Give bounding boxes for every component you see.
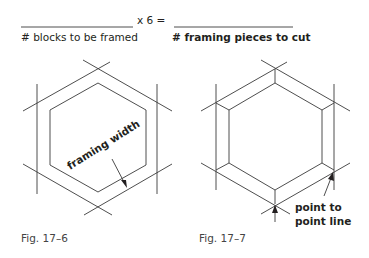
outer-line-left-ll [23, 164, 112, 215]
outer-line-right-ur [261, 60, 350, 111]
outer-line-left-lr [84, 164, 172, 215]
inner-hexagon-left [50, 83, 146, 192]
right-arrow-shaft [324, 178, 331, 196]
p2p-ur [322, 103, 334, 110]
p2p-ul [216, 103, 229, 110]
figure-caption-17-7: Fig. 17–7 [199, 232, 246, 244]
framing-pieces-label: # framing pieces to cut [172, 31, 311, 43]
figure-17-6-hexagon: framing width [23, 60, 172, 215]
multiply-operator: x 6 = [137, 14, 165, 26]
point-to-label: point to [295, 201, 342, 213]
outer-line-left-ur [83, 60, 172, 111]
outer-line-left-ul [23, 62, 110, 111]
right-arrowhead-icon [328, 172, 334, 181]
figure-caption-17-6: Fig. 17–6 [21, 232, 68, 244]
p2p-lr [322, 163, 334, 170]
blocks-to-be-framed-label: # blocks to be framed [21, 31, 138, 43]
arrowhead-icon [121, 180, 127, 188]
figure-17-7-hexagon: point to point line [201, 60, 351, 227]
point-line-label: point line [295, 215, 351, 227]
p2p-ll [216, 163, 229, 170]
outer-line-right-ul [201, 62, 287, 111]
framing-width-label: framing width [65, 117, 142, 171]
inner-hexagon-right [229, 83, 322, 190]
outer-line-right-ll [201, 163, 290, 214]
